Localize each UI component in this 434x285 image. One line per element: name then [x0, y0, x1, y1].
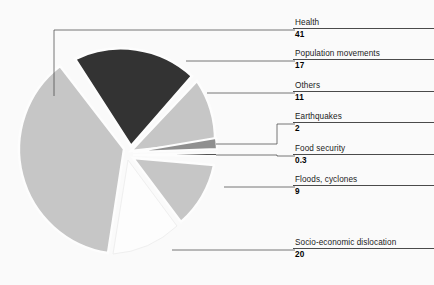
legend-value-floods-cyclones: 9	[293, 186, 434, 197]
legend-value-population-movements: 17	[293, 60, 434, 71]
legend-entry-population-movements[interactable]: Population movements 17	[293, 49, 434, 71]
legend-entry-others[interactable]: Others 11	[293, 81, 434, 103]
legend-label-earthquakes: Earthquakes	[293, 112, 434, 122]
legend-entry-health[interactable]: Health 41	[293, 18, 434, 40]
pie-slices	[19, 48, 217, 254]
legend-label-food-security: Food security	[293, 144, 434, 154]
legend-entry-food-security[interactable]: Food security 0.3	[293, 144, 434, 166]
legend-value-others: 11	[293, 92, 434, 103]
leader-line-food-security	[216, 155, 295, 156]
legend-label-health: Health	[293, 18, 434, 28]
legend-label-floods-cyclones: Floods, cyclones	[293, 175, 434, 185]
legend-value-earthquakes: 2	[293, 123, 434, 134]
legend-value-food-security: 0.3	[293, 155, 434, 166]
legend-entry-earthquakes[interactable]: Earthquakes 2	[293, 112, 434, 134]
legend-entry-socio-economic-dislocation[interactable]: Socio-economic dislocation 20	[293, 238, 434, 260]
legend-entry-floods-cyclones[interactable]: Floods, cyclones 9	[293, 175, 434, 197]
legend-value-health: 41	[293, 29, 434, 40]
legend-label-socio-economic-dislocation: Socio-economic dislocation	[293, 238, 434, 248]
legend-value-socio-economic-dislocation: 20	[293, 249, 434, 260]
leader-line-earthquakes	[216, 124, 295, 144]
pie-slice-food-security[interactable]	[133, 153, 217, 156]
legend-label-population-movements: Population movements	[293, 49, 434, 59]
pie-chart-figure: Health 41 Population movements 17 Others…	[0, 0, 434, 285]
legend-label-others: Others	[293, 81, 434, 91]
